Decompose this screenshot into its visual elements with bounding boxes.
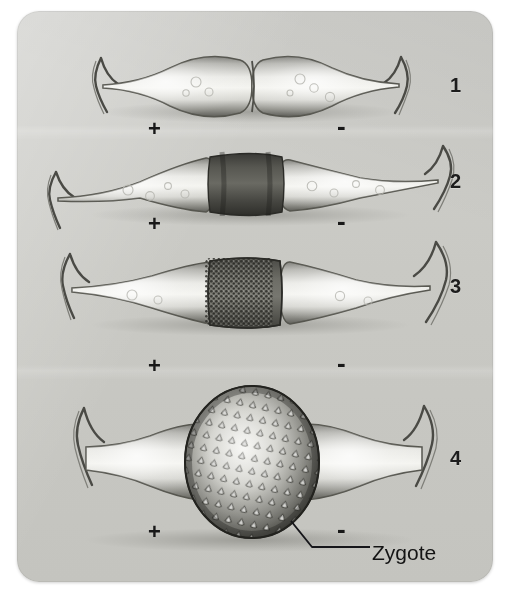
conjugation-figure: 1 2 3 4 + - + - + - + - Zygote [0, 0, 510, 593]
zygote-label: Zygote [372, 541, 436, 565]
mating-sign-plus-1: + [148, 118, 161, 140]
stage-2-illustration [47, 146, 454, 230]
mating-sign-minus-4: - [337, 516, 346, 542]
conjugation-tube-stage2 [208, 152, 284, 218]
conjugation-tube-stage3 [200, 252, 290, 334]
stage-layer: 1 2 3 4 + - + - + - + - Zygote [0, 0, 510, 593]
stage-number-4: 4 [450, 447, 461, 470]
stage-3-illustration [61, 242, 451, 336]
conjugation-artwork [0, 0, 510, 593]
mating-sign-plus-2: + [148, 213, 161, 235]
stage-number-3: 3 [450, 275, 461, 298]
mating-sign-minus-1: - [337, 113, 346, 139]
mating-sign-plus-4: + [148, 521, 161, 543]
stage-4-illustration [74, 382, 437, 552]
mating-sign-minus-3: - [337, 350, 346, 376]
zygote-illustration [180, 382, 330, 544]
stage-1-illustration [92, 56, 410, 123]
mating-sign-plus-3: + [148, 355, 161, 377]
stage-number-2: 2 [450, 170, 461, 193]
stage-number-1: 1 [450, 74, 461, 97]
mating-sign-minus-2: - [337, 208, 346, 234]
